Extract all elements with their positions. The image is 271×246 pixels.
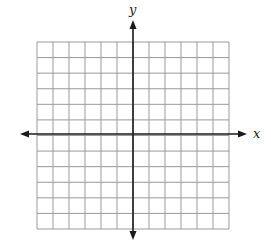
- x-axis: x: [20, 126, 261, 141]
- arrow-down-icon: [130, 231, 137, 240]
- coordinate-plane: x y: [0, 0, 271, 246]
- y-axis-label: y: [128, 2, 137, 17]
- x-axis-label: x: [253, 126, 261, 141]
- arrow-up-icon: [130, 20, 137, 29]
- y-axis: y: [128, 2, 137, 240]
- arrow-right-icon: [238, 131, 247, 138]
- arrow-left-icon: [20, 131, 29, 138]
